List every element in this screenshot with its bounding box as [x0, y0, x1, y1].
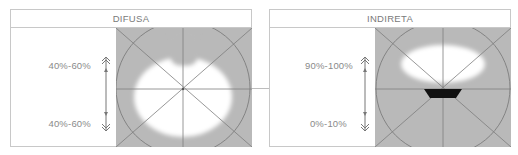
up-down-arrow-icon — [100, 55, 112, 133]
up-down-arrow-icon — [359, 55, 371, 133]
card-title: INDIRETA — [270, 10, 510, 28]
card-difusa: DIFUSA 40%-60% 40%-60% — [10, 9, 252, 147]
fixture-icon — [424, 89, 462, 98]
upper-percentage-label: 40%-60% — [11, 60, 91, 71]
light-distribution-panel-indireta — [375, 28, 511, 147]
card-indireta: INDIRETA 90%-100% 0%-10% — [269, 9, 511, 147]
light-distribution-panel-difusa — [116, 28, 252, 147]
lower-percentage-label: 40%-60% — [11, 118, 91, 129]
card-title: DIFUSA — [11, 10, 251, 28]
lower-percentage-label: 0%-10% — [267, 118, 347, 129]
upper-percentage-label: 90%-100% — [273, 60, 353, 71]
